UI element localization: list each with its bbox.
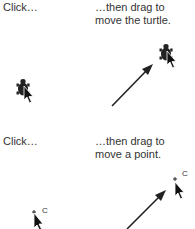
point-end[interactable] <box>171 174 191 202</box>
turtle-icon <box>14 78 38 106</box>
click-caption: Click… <box>3 135 38 148</box>
click-caption: Click… <box>3 1 38 14</box>
point-label: C <box>42 206 48 215</box>
turtle-start[interactable] <box>14 78 38 106</box>
drag-arrow-icon <box>124 186 170 229</box>
point-label: C <box>182 169 188 178</box>
turtle-end[interactable] <box>157 43 181 71</box>
drag-arrow-icon <box>108 60 158 110</box>
drag-caption-line1: …then drag to <box>95 1 165 14</box>
point-icon <box>171 174 191 202</box>
turtle-icon <box>157 43 181 71</box>
drag-caption-line2: move the turtle. <box>95 14 171 27</box>
drag-caption-line2: move a point. <box>95 148 161 161</box>
drag-caption-line1: …then drag to <box>95 135 165 148</box>
